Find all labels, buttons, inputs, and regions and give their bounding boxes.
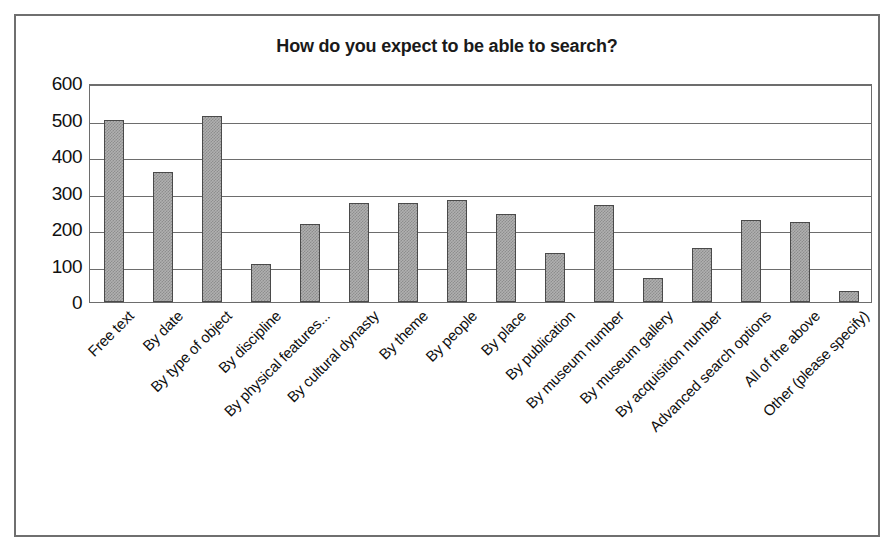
y-tick-label: 0	[18, 292, 82, 314]
bar[interactable]	[153, 172, 173, 302]
x-category-label: By cultural dynasty	[284, 307, 382, 405]
y-tick-label: 300	[18, 183, 82, 205]
bar-slot	[726, 86, 775, 302]
bar[interactable]	[447, 200, 467, 302]
bar-slot	[335, 86, 384, 302]
y-tick-label: 200	[18, 219, 82, 241]
bar-series	[90, 86, 871, 302]
bar[interactable]	[349, 203, 369, 302]
bar-slot	[188, 86, 237, 302]
bar[interactable]	[741, 220, 761, 302]
bar-slot	[286, 86, 335, 302]
bar-slot	[579, 86, 628, 302]
bar-slot	[139, 86, 188, 302]
bar-slot	[384, 86, 433, 302]
y-tick-label: 600	[18, 73, 82, 95]
bar-slot	[677, 86, 726, 302]
bar[interactable]	[545, 253, 565, 302]
bar-slot	[530, 86, 579, 302]
bar-slot	[433, 86, 482, 302]
x-axis-category-labels: Free textBy dateBy type of objectBy disc…	[89, 303, 872, 533]
bar[interactable]	[300, 224, 320, 302]
bar-slot	[482, 86, 531, 302]
x-category-label: By people	[422, 307, 480, 365]
plot-area	[89, 84, 872, 303]
bar-slot	[775, 86, 824, 302]
bar-slot	[824, 86, 873, 302]
chart-frame: How do you expect to be able to search? …	[14, 14, 880, 537]
x-category-label: Free text	[85, 307, 138, 360]
x-category-label: By date	[139, 307, 186, 354]
y-tick-label: 500	[18, 110, 82, 132]
bar-slot	[90, 86, 139, 302]
bar-slot	[628, 86, 677, 302]
chart-title: How do you expect to be able to search?	[16, 36, 878, 57]
bar[interactable]	[104, 120, 124, 303]
bar[interactable]	[790, 222, 810, 302]
bar[interactable]	[251, 264, 271, 302]
bar[interactable]	[643, 278, 663, 302]
y-tick-label: 400	[18, 146, 82, 168]
bar[interactable]	[594, 205, 614, 302]
bar[interactable]	[692, 248, 712, 302]
x-category-label: By museum gallery	[576, 307, 676, 407]
bar-slot	[237, 86, 286, 302]
bar[interactable]	[398, 203, 418, 302]
bar[interactable]	[839, 291, 859, 302]
bar[interactable]	[202, 116, 222, 302]
y-tick-label: 100	[18, 256, 82, 278]
bar[interactable]	[496, 214, 516, 302]
